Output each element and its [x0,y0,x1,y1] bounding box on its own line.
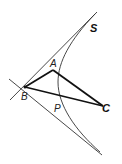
point-b-dot [24,86,27,89]
upper-asymptote-line [10,12,97,100]
geometry-diagram: S A B P C [0,0,122,164]
segment-b-a [25,70,53,87]
label-c: C [102,102,111,114]
label-a: A [49,58,57,69]
label-p: P [54,103,61,114]
hyperbola-curve-s [58,14,100,152]
label-s: S [90,22,98,34]
label-b: B [21,91,28,102]
